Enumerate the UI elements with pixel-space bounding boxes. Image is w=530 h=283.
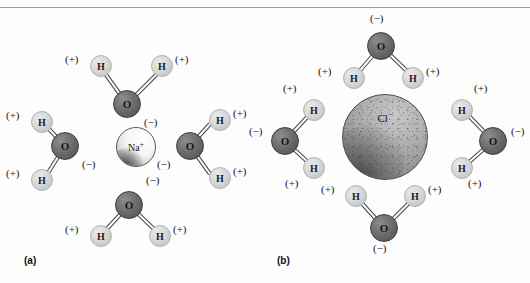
water-bottom-hydrogen-right-charge: (+) (173, 223, 187, 235)
water-right-hydrogen-upper-charge: (+) (233, 107, 247, 119)
water-bottom-hydrogen-left: H (90, 225, 112, 247)
panel-b-caption: (b) (277, 255, 290, 266)
water-left-hydrogen-lower: H (31, 169, 53, 191)
water-bottom-hydrogen-right-charge: (+) (428, 183, 442, 195)
chloride-ion-label: Cl− (378, 112, 393, 124)
water-right-hydrogen-lower: H (209, 167, 231, 189)
water-left-oxygen-charge: (−) (82, 158, 96, 170)
water-right-oxygen-charge: (−) (511, 125, 525, 137)
water-right-hydrogen-upper: H (451, 99, 473, 121)
water-bottom-oxygen-charge: (−) (373, 242, 387, 254)
water-left-hydrogen-lower-charge: (+) (6, 167, 20, 179)
water-bottom-oxygen: O (115, 191, 143, 219)
water-left-hydrogen-upper-charge: (+) (283, 82, 297, 94)
water-left-oxygen-charge: (−) (249, 125, 263, 137)
water-top-oxygen: O (113, 90, 141, 118)
water-left-oxygen: O (271, 127, 299, 155)
water-right-hydrogen-lower-charge: (+) (468, 177, 482, 189)
water-left-hydrogen-upper-charge: (+) (6, 109, 20, 121)
water-left-hydrogen-lower: H (303, 157, 325, 179)
water-right-hydrogen-upper-charge: (+) (474, 82, 488, 94)
water-bottom-hydrogen-left-charge: (+) (65, 223, 79, 235)
water-bottom-hydrogen-right: H (404, 185, 426, 207)
water-top-oxygen-charge: (−) (144, 116, 158, 128)
water-right-hydrogen-lower-charge: (+) (233, 165, 247, 177)
water-left-hydrogen-upper: H (31, 111, 53, 133)
hydration-figure: Na+ O (−) H (+) H (+) O (−) H (+) H (+) … (0, 0, 530, 283)
chloride-ion-sphere: Cl− (342, 94, 428, 180)
water-bottom-hydrogen-left-charge: (+) (321, 183, 335, 195)
water-top-hydrogen-left: H (90, 55, 112, 77)
water-top-hydrogen-left-charge: (+) (318, 65, 332, 77)
water-left-oxygen: O (51, 132, 79, 160)
water-top-hydrogen-right: H (402, 67, 424, 89)
water-top-oxygen-charge: (−) (370, 12, 384, 24)
water-top-hydrogen-right-charge: (+) (175, 53, 189, 65)
water-right-oxygen-charge: (−) (157, 158, 171, 170)
panel-b-chloride-hydration: Cl− O (−) H (+) H (+) O (−) H (+) H (+) … (265, 0, 530, 283)
panel-a-sodium-hydration: Na+ O (−) H (+) H (+) O (−) H (+) H (+) … (0, 0, 265, 283)
water-right-oxygen: O (176, 132, 204, 160)
water-right-hydrogen-upper: H (209, 109, 231, 131)
water-left-hydrogen-upper: H (303, 99, 325, 121)
water-bottom-hydrogen-left: H (345, 185, 367, 207)
water-right-hydrogen-lower: H (451, 157, 473, 179)
water-top-oxygen: O (367, 32, 395, 60)
water-bottom-oxygen: O (370, 214, 398, 242)
water-top-hydrogen-left-charge: (+) (65, 53, 79, 65)
water-left-hydrogen-lower-charge: (+) (285, 177, 299, 189)
water-bottom-hydrogen-right: H (149, 225, 171, 247)
water-right-oxygen: O (479, 127, 507, 155)
sodium-ion-sphere: Na+ (116, 127, 156, 167)
water-bottom-oxygen-charge: (−) (146, 174, 160, 186)
panel-a-caption: (a) (24, 255, 36, 266)
water-top-hydrogen-right: H (151, 55, 173, 77)
sodium-ion-label: Na+ (128, 142, 144, 153)
water-top-hydrogen-left: H (343, 67, 365, 89)
water-top-hydrogen-right-charge: (+) (426, 65, 440, 77)
